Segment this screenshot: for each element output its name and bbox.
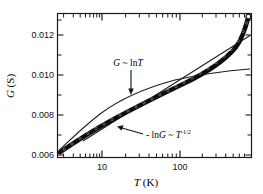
- figure-conductance-vs-temperature: G ~ lnT - lnG ~ T-1/2 0.006 0.008 0.010 …: [0, 0, 263, 194]
- anno-vrh-tilde: ~: [166, 130, 176, 140]
- y-tick-label-3: 0.012: [31, 30, 54, 40]
- y-tick-label-2: 0.010: [31, 70, 54, 80]
- anno-vrh-exponent: -1/2: [181, 129, 191, 135]
- x-axis-title: T (K): [134, 176, 158, 189]
- x-tick-labels: 10 100: [97, 162, 188, 172]
- y-axis-title-unit: (S): [4, 74, 17, 91]
- y-tick-label-0: 0.006: [31, 150, 54, 160]
- data-endpoint-marker: [246, 14, 251, 19]
- anno-lnT-var-t: T: [137, 58, 143, 68]
- anno-lnT-tilde: ~: [120, 58, 130, 68]
- x-tick-label-0: 10: [97, 162, 107, 172]
- x-axis-title-unit: (K): [140, 176, 158, 189]
- y-axis-title: G (S): [4, 74, 17, 98]
- chart-canvas: G ~ lnT - lnG ~ T-1/2 0.006 0.008 0.010 …: [0, 0, 263, 194]
- svg-text:G ~ lnT: G ~ lnT: [113, 58, 143, 68]
- y-axis-title-var: G: [4, 90, 16, 98]
- y-tick-labels: 0.006 0.008 0.010 0.012: [31, 30, 54, 160]
- anno-vrh-minusln: - ln: [146, 130, 159, 140]
- x-tick-label-1: 100: [172, 162, 187, 172]
- y-tick-label-1: 0.008: [31, 110, 54, 120]
